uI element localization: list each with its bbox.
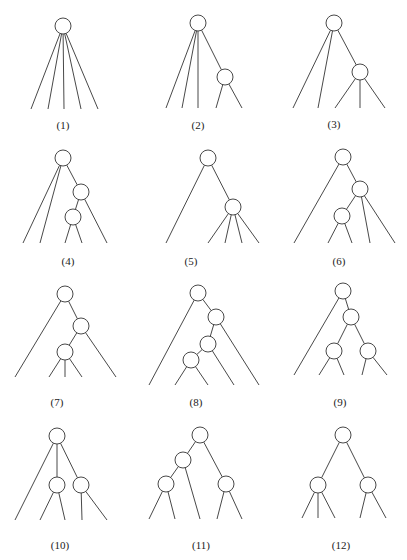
leaf-edge (66, 33, 98, 109)
leaf-edge (294, 298, 339, 375)
leaf-edge (65, 225, 71, 243)
leaf-edge (195, 367, 208, 385)
root-node (335, 283, 351, 299)
leaf-edge (212, 351, 234, 385)
tree-1: (1) (31, 18, 98, 132)
internal-edge (322, 442, 340, 478)
tree-nodes (183, 285, 224, 368)
leaf-edge (328, 223, 338, 243)
internal-node (326, 343, 342, 359)
root-node (190, 285, 206, 301)
leaf-edge (166, 30, 195, 108)
internal-edge (67, 165, 78, 185)
leaf-edge (65, 34, 81, 109)
root-node (335, 427, 351, 443)
leaf-edge (81, 493, 82, 520)
tree-edges (31, 33, 98, 109)
internal-edge (69, 333, 77, 345)
tree-5: (5) (166, 150, 259, 268)
leaf-edge (319, 358, 330, 375)
internal-edge (203, 299, 211, 310)
leaf-edge (40, 492, 54, 520)
internal-edge (345, 299, 348, 310)
internal-edge (210, 325, 213, 337)
tree-label: (1) (57, 119, 70, 132)
leaf-edge (302, 492, 315, 518)
internal-edge (197, 349, 202, 354)
leaf-edge (208, 214, 228, 243)
root-node (326, 15, 342, 31)
internal-edge (61, 443, 78, 478)
leaf-edge (235, 215, 242, 243)
internal-node (49, 477, 65, 493)
tree-2: (2) (166, 15, 242, 132)
internal-edge (202, 30, 222, 70)
tree-6: (6) (294, 149, 395, 268)
tree-9: (9) (294, 283, 387, 409)
leaf-edge (15, 301, 61, 377)
leaf-edge (166, 165, 204, 243)
internal-node (225, 199, 241, 215)
tree-7: (7) (15, 286, 116, 409)
leaf-edge (69, 359, 82, 377)
leaf-edge (31, 33, 60, 109)
internal-node (200, 336, 216, 352)
leaf-edge (365, 79, 385, 108)
internal-edge (171, 467, 179, 478)
leaf-edge (318, 31, 333, 108)
internal-node (218, 476, 234, 492)
leaf-edge (59, 493, 65, 520)
internal-node (73, 318, 89, 334)
leaf-edge (294, 164, 339, 243)
tree-nodes (310, 427, 376, 493)
tree-edges (294, 164, 395, 243)
leaf-edge (360, 493, 366, 518)
internal-edge (338, 324, 348, 344)
internal-node (208, 309, 224, 325)
root-node (190, 15, 206, 31)
tree-label: (8) (190, 396, 203, 409)
tree-label: (11) (192, 539, 210, 552)
root-node (55, 18, 71, 34)
root-node (57, 286, 73, 302)
leaf-edge (23, 165, 60, 243)
tree-label: (10) (51, 539, 70, 552)
tree-10: (10) (15, 428, 107, 552)
tree-4: (4) (23, 150, 107, 268)
internal-edge (338, 30, 357, 65)
internal-node (352, 64, 368, 80)
root-node (55, 150, 71, 166)
leaf-edge (322, 492, 335, 518)
leaf-edge (372, 492, 386, 518)
tree-11: (11) (149, 427, 242, 552)
leaf-edge (149, 491, 163, 519)
tree-label: (2) (192, 119, 205, 132)
leaf-edge (216, 85, 223, 108)
tree-edges (23, 165, 107, 243)
internal-node (360, 343, 376, 359)
leaf-edge (225, 215, 231, 243)
leaf-edge (175, 367, 187, 385)
leaf-edge (63, 34, 64, 109)
tree-label: (9) (334, 396, 347, 409)
leaf-edge (168, 492, 175, 519)
leaf-edge (15, 443, 53, 520)
leaf-edge (345, 224, 352, 243)
tree-12: (12) (302, 427, 386, 552)
internal-edge (347, 164, 356, 182)
tree-nodes (326, 283, 376, 359)
internal-node (73, 477, 89, 493)
internal-edge (75, 200, 78, 210)
internal-node (57, 344, 73, 360)
internal-edge (347, 442, 365, 478)
internal-edge (355, 324, 365, 344)
leaf-edge (76, 225, 82, 243)
root-node (49, 428, 65, 444)
internal-node (343, 309, 359, 325)
internal-node (352, 181, 368, 197)
leaf-edge (229, 491, 242, 519)
leaf-edge (40, 166, 61, 243)
root-node (335, 149, 351, 165)
tree-edges (15, 301, 116, 377)
internal-node (158, 476, 174, 492)
